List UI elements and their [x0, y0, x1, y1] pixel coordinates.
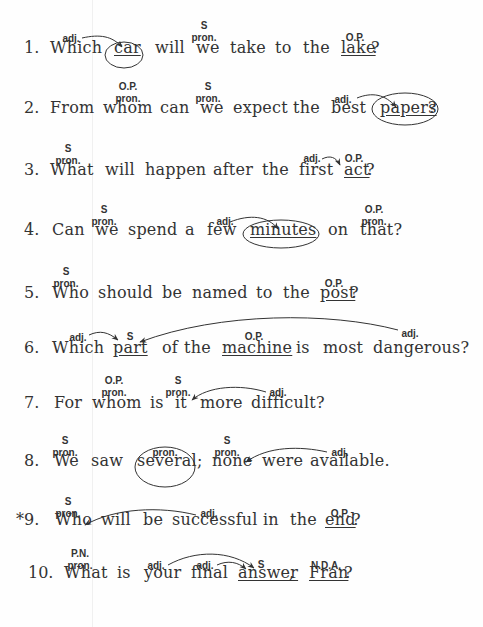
- sentence-number: 1.: [24, 38, 39, 57]
- word: spend: [128, 220, 177, 239]
- grammar-label: adj.: [331, 447, 348, 459]
- grammar-label: P.N.: [71, 548, 89, 560]
- grammar-label: S: [224, 435, 231, 447]
- grammar-label: O.P.: [105, 375, 124, 387]
- sentence-number: 10.: [28, 563, 53, 582]
- word: ?: [366, 160, 375, 179]
- grammar-label: adj.: [303, 153, 320, 165]
- word: ?: [428, 98, 437, 117]
- grammar-label: pron.: [56, 508, 81, 520]
- word: happen: [145, 160, 206, 179]
- worksheet-page: 1.Whichcarwillwetaketothelake?adj.Spron.…: [0, 0, 483, 627]
- word: ?: [371, 38, 380, 57]
- sentence-number: 3.: [24, 160, 39, 179]
- word: on: [328, 220, 348, 239]
- word: were: [262, 451, 303, 470]
- word: the: [293, 98, 320, 117]
- word: named: [192, 283, 248, 302]
- word: will: [101, 510, 131, 529]
- sentence-number: *9.: [16, 510, 39, 529]
- word: the: [184, 338, 211, 357]
- grammar-label: pron.: [56, 155, 81, 167]
- grammar-label: N.D.A.: [311, 560, 341, 572]
- grammar-label: O.P.: [345, 153, 364, 165]
- grammar-label: adj.: [401, 328, 418, 340]
- grammar-label: pron.: [116, 93, 141, 105]
- grammar-label: pron.: [54, 278, 79, 290]
- word: in: [263, 510, 279, 529]
- word: expect: [233, 98, 288, 117]
- grammar-label: adj.: [62, 33, 79, 45]
- grammar-label: adj.: [269, 387, 286, 399]
- word: will: [155, 38, 185, 57]
- sentence-number: 4.: [24, 220, 39, 239]
- sentence-number: 5.: [24, 283, 39, 302]
- word: to: [275, 38, 291, 57]
- word: dangerous?: [373, 338, 469, 357]
- word: will: [105, 160, 135, 179]
- grammar-label: pron.: [68, 560, 93, 572]
- word: For: [54, 393, 82, 412]
- grammar-label: S: [62, 435, 69, 447]
- grammar-label: S: [65, 496, 72, 508]
- grammar-label: pron.: [153, 447, 178, 459]
- word: to: [256, 283, 272, 302]
- grammar-label: O.P.: [331, 508, 350, 520]
- word: available.: [310, 451, 390, 470]
- grammar-label: S: [101, 204, 108, 216]
- word: can: [160, 98, 189, 117]
- word: From: [50, 98, 94, 117]
- underlined-word: minutes: [250, 220, 316, 239]
- grammar-label: pron.: [192, 32, 217, 44]
- grammar-label: O.P.: [365, 204, 384, 216]
- grammar-label: pron.: [53, 447, 78, 459]
- grammar-label: O.P.: [119, 81, 138, 93]
- word: difficult?: [251, 393, 325, 412]
- grammar-label: O.P.: [325, 278, 344, 290]
- word: the: [303, 38, 330, 57]
- word: the: [283, 283, 310, 302]
- grammar-label: adj.: [69, 332, 86, 344]
- word: a: [185, 220, 195, 239]
- grammar-label: pron.: [166, 387, 191, 399]
- grammar-label: S: [258, 559, 265, 571]
- word: take: [230, 38, 266, 57]
- page-margin-line: [92, 0, 93, 627]
- grammar-label: pron.: [215, 447, 240, 459]
- word: ?: [352, 510, 361, 529]
- sentence-number: 8.: [24, 451, 39, 470]
- word: saw: [91, 451, 123, 470]
- word: ,: [289, 563, 294, 582]
- grammar-label: pron.: [92, 216, 117, 228]
- word: Can: [52, 220, 85, 239]
- word: be: [143, 510, 163, 529]
- grammar-label: S: [201, 20, 208, 32]
- sentence-number: 6.: [24, 338, 39, 357]
- grammar-label: pron.: [362, 216, 387, 228]
- word: should: [98, 283, 153, 302]
- grammar-label: S: [205, 81, 212, 93]
- word: is: [117, 563, 131, 582]
- annotation-marks: [0, 0, 483, 627]
- word: is: [150, 393, 164, 412]
- word: after: [213, 160, 253, 179]
- word: ?: [350, 283, 359, 302]
- word: more: [200, 393, 243, 412]
- grammar-label: O.P.: [346, 32, 365, 44]
- grammar-label: S: [65, 143, 72, 155]
- word: of: [162, 338, 178, 357]
- word: the: [262, 160, 289, 179]
- grammar-label: adj.: [147, 560, 164, 572]
- grammar-label: O.P.: [245, 331, 264, 343]
- grammar-label: S: [63, 266, 70, 278]
- grammar-label: adj.: [334, 94, 351, 106]
- grammar-label: S: [175, 375, 182, 387]
- underlined-word: car: [114, 38, 141, 57]
- word: is: [296, 338, 310, 357]
- word: most: [323, 338, 363, 357]
- word: ?: [344, 563, 353, 582]
- grammar-label: adj.: [200, 508, 217, 520]
- sentence-number: 7.: [24, 393, 39, 412]
- word: be: [162, 283, 182, 302]
- sentence-number: 2.: [24, 98, 39, 117]
